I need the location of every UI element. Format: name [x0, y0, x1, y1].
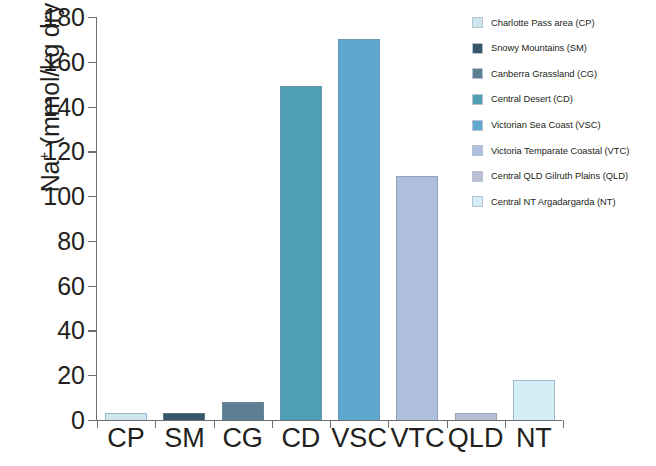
legend-item-cd: Central Desert (CD)	[472, 87, 656, 113]
legend-label-cp: Charlotte Pass area (CP)	[491, 18, 595, 28]
y-tick-label: 160	[43, 49, 85, 74]
x-label-sm: SM	[155, 424, 213, 452]
bar-vtc	[396, 176, 438, 420]
x-axis-labels: CPSMCGCDVSCVTCQLDNT	[97, 424, 563, 452]
bar-vsc	[338, 39, 380, 420]
y-tick-mark	[88, 330, 96, 331]
y-tick-label: 0	[71, 408, 85, 433]
x-label-nt: NT	[505, 424, 563, 452]
bar-cg	[222, 402, 264, 420]
bar-slot-cp	[97, 17, 155, 420]
y-tick-mark	[88, 420, 96, 421]
x-label-cg: CG	[214, 424, 272, 452]
x-label-cp: CP	[97, 424, 155, 452]
bar-slot-sm	[155, 17, 213, 420]
chart-legend: Charlotte Pass area (CP)Snowy Mountains …	[472, 10, 656, 215]
y-tick-label: 60	[57, 273, 85, 298]
x-axis-line	[96, 420, 562, 421]
y-axis-title: Na+ (mmol/kg dry weight)	[35, 0, 64, 265]
y-tick-mark	[88, 107, 96, 108]
legend-item-vtc: Victoria Temparate Coastal (VTC)	[472, 138, 656, 164]
bar-cp	[105, 413, 147, 420]
legend-label-nt: Central NT Argadargarda (NT)	[491, 197, 616, 207]
legend-label-cg: Canberra Grassland (CG)	[491, 69, 597, 79]
bar-nt	[513, 380, 555, 420]
x-label-qld: QLD	[447, 424, 505, 452]
legend-item-nt: Central NT Argadargarda (NT)	[472, 189, 656, 215]
y-tick-mark	[88, 286, 96, 287]
y-tick-mark	[88, 241, 96, 242]
x-tick-mark	[563, 420, 564, 428]
legend-swatch-vtc	[472, 145, 483, 156]
legend-item-qld: Central QLD Gilruth Plains (QLD)	[472, 164, 656, 190]
legend-swatch-sm	[472, 43, 483, 54]
legend-swatch-cg	[472, 68, 483, 79]
x-label-vsc: VSC	[330, 424, 388, 452]
bar-slot-vsc	[330, 17, 388, 420]
legend-item-cp: Charlotte Pass area (CP)	[472, 10, 656, 36]
legend-swatch-qld	[472, 171, 483, 182]
y-tick-label: 20	[57, 363, 85, 388]
legend-item-cg: Canberra Grassland (CG)	[472, 61, 656, 87]
legend-swatch-nt	[472, 196, 483, 207]
y-tick-mark	[88, 62, 96, 63]
bar-slot-cd	[272, 17, 330, 420]
x-label-cd: CD	[272, 424, 330, 452]
y-tick-label: 100	[43, 184, 85, 209]
y-tick-label: 40	[57, 318, 85, 343]
legend-label-vsc: Victorian Sea Coast (VSC)	[491, 120, 601, 130]
legend-swatch-cp	[472, 17, 483, 28]
bar-cd	[280, 86, 322, 420]
legend-item-sm: Snowy Mountains (SM)	[472, 36, 656, 62]
y-tick-label: 180	[43, 5, 85, 30]
legend-swatch-cd	[472, 94, 483, 105]
legend-label-qld: Central QLD Gilruth Plains (QLD)	[491, 171, 628, 181]
bar-slot-vtc	[388, 17, 446, 420]
y-tick-label: 140	[43, 94, 85, 119]
legend-label-sm: Snowy Mountains (SM)	[491, 43, 587, 53]
legend-label-vtc: Victoria Temparate Coastal (VTC)	[491, 146, 629, 156]
bar-chart: Na+ (mmol/kg dry weight) 020406080100120…	[0, 0, 656, 466]
y-tick-label: 80	[57, 228, 85, 253]
bar-slot-cg	[214, 17, 272, 420]
y-tick-mark	[88, 151, 96, 152]
x-label-vtc: VTC	[388, 424, 446, 452]
y-tick-label: 120	[43, 139, 85, 164]
y-tick-mark	[88, 17, 96, 18]
y-tick-mark	[88, 196, 96, 197]
y-tick-mark	[88, 375, 96, 376]
bar-sm	[163, 413, 205, 420]
bar-qld	[455, 413, 497, 420]
legend-label-cd: Central Desert (CD)	[491, 94, 573, 104]
legend-item-vsc: Victorian Sea Coast (VSC)	[472, 112, 656, 138]
legend-swatch-vsc	[472, 120, 483, 131]
